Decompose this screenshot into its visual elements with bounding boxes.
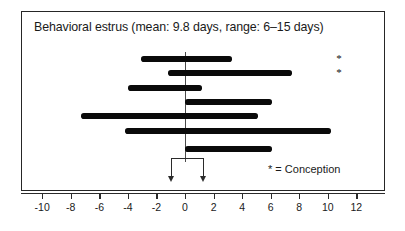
x-axis-tick-label: -8 — [66, 201, 75, 213]
legend-conception: * = Conception — [268, 163, 340, 175]
estrus-range-bar — [81, 113, 258, 119]
estrus-range-bar — [185, 146, 272, 152]
x-axis-tick-label: 6 — [268, 201, 274, 213]
chart-title: Behavioral estrus (mean: 9.8 days, range… — [34, 20, 324, 34]
x-axis-tick — [271, 193, 272, 199]
x-axis-tick — [299, 193, 300, 199]
estrus-range-chart: Behavioral estrus (mean: 9.8 days, range… — [0, 0, 405, 231]
x-axis-tick — [356, 193, 357, 199]
x-axis-tick — [328, 193, 329, 199]
x-axis-tick — [156, 193, 157, 199]
x-axis-tick — [185, 193, 186, 199]
estrus-range-bar — [168, 70, 292, 76]
arrow-right-head-icon — [200, 176, 206, 182]
x-axis-tick-label: 0 — [182, 201, 188, 213]
x-axis-line — [21, 193, 385, 194]
x-axis-tick-label: -4 — [123, 201, 132, 213]
x-axis-tick-label: 10 — [322, 201, 334, 213]
estrus-range-bar — [141, 56, 232, 62]
x-axis-tick — [71, 193, 72, 199]
x-axis-tick-label: 2 — [211, 201, 217, 213]
x-axis-tick — [128, 193, 129, 199]
x-axis-tick — [242, 193, 243, 199]
conception-asterisk-icon: * — [336, 53, 342, 64]
x-axis-tick-label: -2 — [152, 201, 161, 213]
estrus-range-bar — [128, 85, 202, 91]
x-axis-tick — [99, 193, 100, 199]
estrus-range-bar — [125, 128, 331, 134]
estrus-range-bar — [185, 99, 272, 105]
conception-window-bracket — [171, 158, 204, 168]
x-axis-tick — [42, 193, 43, 199]
x-axis-tick-label: 4 — [239, 201, 245, 213]
x-axis-tick — [214, 193, 215, 199]
conception-asterisk-icon: * — [336, 67, 342, 78]
arrow-left-head-icon — [168, 176, 174, 182]
x-axis-tick-label: -10 — [35, 201, 50, 213]
x-axis-tick-label: -6 — [95, 201, 104, 213]
x-axis-tick-label: 8 — [296, 201, 302, 213]
x-axis-tick-label: 12 — [351, 201, 363, 213]
